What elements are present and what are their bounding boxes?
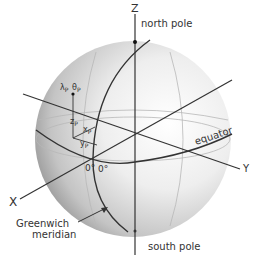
south-pole-label: south pole [148,241,201,252]
y-axis-label: Y [242,163,250,174]
x-axis-label: X [9,195,17,209]
south-pole-dot [134,230,137,233]
sphere-coordinate-diagram: Z X Y north pole south pole equator Gree… [0,0,258,261]
zero-latitude-label: 0° [85,163,95,173]
greenwich-label: Greenwich [16,218,69,229]
north-pole-label: north pole [141,18,192,29]
point-p-dot [71,92,74,95]
north-pole-dot [133,40,137,44]
meridian-label: meridian [32,229,76,240]
zero-longitude-label: 0° [98,164,108,174]
z-axis-label: Z [131,2,139,15]
